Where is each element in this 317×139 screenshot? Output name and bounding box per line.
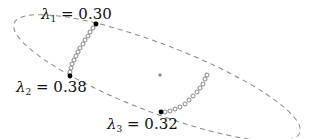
trajectory-circle — [88, 30, 92, 34]
trajectory-circle — [195, 90, 199, 94]
trajectory-circles-2 — [163, 73, 209, 114]
trajectory-circle — [69, 66, 73, 70]
trajectory-circle — [187, 98, 191, 102]
lambda-1-symbol: λ — [41, 5, 51, 23]
trajectory-circle — [91, 26, 95, 30]
lambda-2-value: = 0.38 — [31, 78, 87, 96]
trajectory-circle — [81, 42, 85, 46]
lambda3-point — [159, 110, 164, 115]
center-cross-icon — [158, 73, 162, 77]
trajectory-circle — [83, 38, 87, 42]
trajectory-circle — [168, 109, 172, 113]
lambda-2-symbol: λ — [16, 78, 26, 96]
marked-points — [68, 22, 164, 115]
trajectory-circle — [72, 58, 76, 62]
lambda-1-value: = 0.30 — [56, 5, 112, 23]
trajectory-circle — [183, 102, 187, 106]
trajectory-circle — [178, 105, 182, 109]
trajectory-circle — [76, 50, 80, 54]
trajectory-circle — [163, 110, 167, 114]
trajectory-circle — [203, 77, 207, 81]
trajectory-circle — [74, 54, 78, 58]
lambda-3-value: = 0.32 — [122, 115, 178, 133]
trajectory-circle — [68, 70, 72, 74]
trajectory-circle — [205, 73, 209, 77]
lambda-3-label: λ3 = 0.32 — [107, 117, 178, 134]
lambda-3-symbol: λ — [107, 115, 117, 133]
trajectory-circle — [173, 107, 177, 111]
lambda-2-label: λ2 = 0.38 — [16, 80, 87, 97]
trajectory-circle — [70, 62, 74, 66]
trajectory-circle — [86, 34, 90, 38]
trajectory-circle — [198, 86, 202, 90]
trajectory-circle — [201, 82, 205, 86]
trajectory-circle — [191, 94, 195, 98]
lambda-1-label: λ1 = 0.30 — [41, 7, 112, 24]
trajectory-circles-1 — [68, 22, 98, 74]
trajectory-circle — [78, 46, 82, 50]
